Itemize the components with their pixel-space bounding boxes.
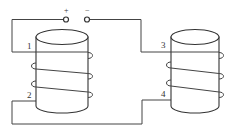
positive-label: + bbox=[64, 6, 69, 15]
terminal-label-4: 4 bbox=[161, 89, 166, 99]
coil-circuit-diagram: + − 1 2 3 4 bbox=[0, 0, 236, 134]
terminal-label-2: 2 bbox=[27, 90, 32, 100]
positive-terminal-icon bbox=[64, 17, 69, 22]
negative-terminal-icon bbox=[85, 17, 90, 22]
negative-label: − bbox=[85, 6, 90, 15]
wire-negative-to-3 bbox=[90, 20, 171, 53]
terminal-label-3: 3 bbox=[161, 40, 166, 50]
terminal-label-1: 1 bbox=[27, 41, 32, 51]
